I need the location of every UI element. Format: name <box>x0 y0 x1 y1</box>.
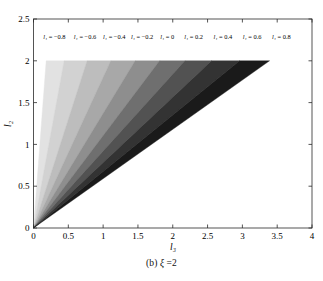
x-tick-label: 0 <box>31 231 36 241</box>
wedge-value-label: l₁ = 0.4 <box>213 33 233 40</box>
wedge-annotations-layer: l₁ = −0.8l₁ = −0.6l₁ = −0.4l₁ = −0.2l₁ =… <box>43 33 291 40</box>
y-tick-label: 0 <box>25 223 30 233</box>
wedge-value-label: l₁ = 0.2 <box>184 33 203 40</box>
wedge-value-label: l₁ = −0.4 <box>103 33 126 40</box>
y-tick-label: 2 <box>25 56 30 66</box>
x-tick-label: 0.5 <box>63 231 75 241</box>
y-tick-label: 1.5 <box>18 98 30 108</box>
plot-canvas: 00.511.522.533.5400.511.522.5 l₁ = −0.8l… <box>0 0 323 281</box>
x-tick-label: 3.5 <box>272 231 284 241</box>
x-tick-label: 1.5 <box>132 231 144 241</box>
x-axis-title: l₃ <box>170 242 176 252</box>
wedge-value-label: l₁ = 0 <box>160 33 174 40</box>
y-tick-label: 2.5 <box>18 14 30 24</box>
y-tick-label: 0.5 <box>18 181 30 191</box>
wedge-series-layer <box>34 61 270 228</box>
y-axis-title: l₂ <box>3 120 13 127</box>
caption-symbol-xi: ξ <box>160 258 164 268</box>
figure-caption: (b) ξ =2 <box>0 258 323 268</box>
x-tick-label: 1 <box>101 231 106 241</box>
caption-prefix: (b) <box>146 258 157 268</box>
wedge-value-label: l₁ = −0.2 <box>131 33 153 40</box>
x-tick-label: 2 <box>171 231 176 241</box>
caption-value: =2 <box>167 258 177 268</box>
wedge-value-label: l₁ = −0.8 <box>43 33 65 40</box>
wedge-value-label: l₁ = −0.6 <box>74 33 96 40</box>
x-tick-label: 3 <box>240 231 245 241</box>
wedge-value-label: l₁ = 0.6 <box>243 33 262 40</box>
y-tick-label: 1 <box>25 140 30 150</box>
x-tick-label: 2.5 <box>202 231 214 241</box>
wedge-value-label: l₁ = 0.8 <box>272 33 291 40</box>
x-tick-label: 4 <box>310 231 315 241</box>
figure-root: 00.511.522.533.5400.511.522.5 l₁ = −0.8l… <box>0 0 323 281</box>
